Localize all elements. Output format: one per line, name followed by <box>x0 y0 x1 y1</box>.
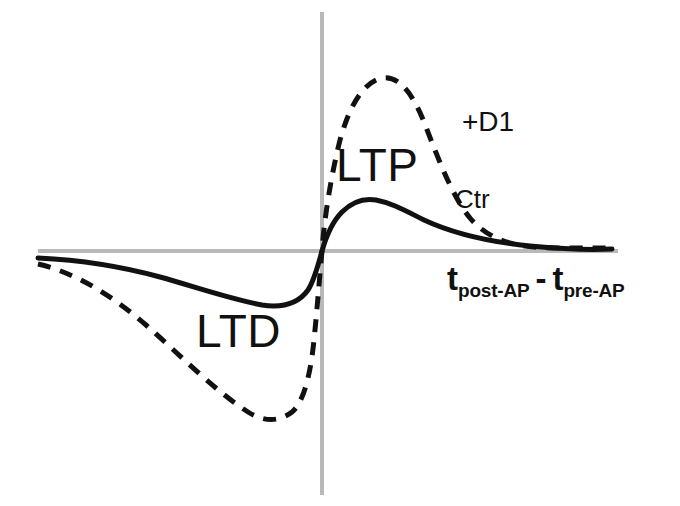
curve-d1-dashed <box>38 78 614 420</box>
x-axis-label: tpost-AP-tpre-AP <box>447 262 625 295</box>
stdp-figure: LTP LTD +D1 Ctr tpost-AP-tpre-AP <box>0 0 680 506</box>
annotation-ltp: LTP <box>336 142 418 188</box>
x-axis-label-pre-sub: pre-AP <box>563 280 624 301</box>
x-axis-label-t2: t <box>552 260 563 297</box>
series-label-d1: +D1 <box>462 108 514 136</box>
annotation-ltd: LTD <box>196 308 281 354</box>
x-axis-label-post-sub: post-AP <box>458 280 529 301</box>
stdp-plot-canvas <box>0 0 680 506</box>
axes-group <box>38 12 618 495</box>
x-axis-label-minus: - <box>529 260 552 297</box>
x-axis-label-t1: t <box>447 260 458 297</box>
series-label-ctr: Ctr <box>455 186 490 212</box>
